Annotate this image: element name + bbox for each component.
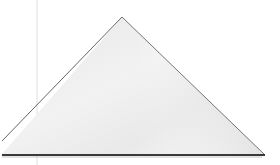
paper-triangle-photo — [0, 0, 280, 165]
paper-shading — [2, 17, 265, 155]
photo-scene — [0, 0, 280, 165]
